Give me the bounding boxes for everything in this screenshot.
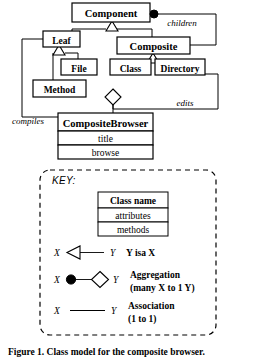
- class-box-directory[interactable]: Directory: [155, 59, 205, 75]
- class-box-class[interactable]: Class: [110, 59, 151, 75]
- class-box-method[interactable]: Method: [33, 80, 86, 97]
- key-aggregation-ball-icon: [66, 275, 75, 284]
- class-box-composite-browser-label: CompositeBrowser: [63, 118, 149, 129]
- class-box-leaf-label: Leaf: [52, 36, 71, 46]
- class-box-component-label: Component: [85, 8, 138, 19]
- key-row-inheritance-left-label: X: [53, 248, 61, 258]
- class-box-method-label: Method: [44, 85, 76, 95]
- generalization-component-composite: [72, 21, 152, 37]
- key-legend-panel: KEY: Class name attributes methods X Y Y…: [40, 170, 216, 335]
- key-sample-class-box: Class name attributes methods: [98, 192, 168, 236]
- association-label-children: children: [167, 18, 197, 28]
- key-row-association-sub: (1 to 1): [128, 314, 157, 325]
- key-row-aggregation: X Y Aggregation (many X to 1 Y): [53, 270, 195, 294]
- class-box-class-label: Class: [120, 64, 142, 74]
- class-box-composite-label: Composite: [130, 41, 178, 52]
- key-row-association-right-label: Y: [111, 306, 118, 316]
- key-sample-class-name: Class name: [110, 196, 156, 206]
- key-row-inheritance-description: Y isa X: [126, 248, 155, 258]
- key-row-aggregation-left-label: X: [53, 275, 61, 285]
- diagram-canvas: Component Leaf Composite File Class Dire…: [0, 0, 253, 357]
- class-box-directory-label: Directory: [161, 64, 200, 74]
- class-box-component[interactable]: Component: [72, 3, 150, 22]
- key-aggregation-diamond-icon: [92, 272, 109, 288]
- aggregation-ball-children: [150, 10, 158, 18]
- key-row-association-description: Association: [128, 301, 175, 311]
- key-row-aggregation-sub: (many X to 1 Y): [130, 283, 195, 294]
- association-label-edits: edits: [177, 98, 194, 108]
- association-label-compiles: compiles: [12, 116, 44, 126]
- uml-class-diagram-figure: Component Leaf Composite File Class Dire…: [0, 0, 253, 357]
- figure-caption: Figure 1. Class model for the composite …: [8, 348, 205, 357]
- figure-caption-clip: Figure 1. Class model for the composite …: [0, 348, 253, 357]
- class-box-composite-browser[interactable]: CompositeBrowser title browse: [58, 113, 153, 159]
- key-sample-class-methods: methods: [117, 225, 149, 235]
- key-row-association-left-label: X: [53, 306, 61, 316]
- key-legend-title: KEY:: [52, 175, 76, 186]
- class-box-file[interactable]: File: [61, 59, 97, 75]
- association-edits-edge: [113, 74, 218, 109]
- key-row-inheritance: X Y Y isa X: [53, 246, 155, 259]
- key-row-association: X Y Association (1 to 1): [53, 301, 175, 325]
- class-box-leaf[interactable]: Leaf: [43, 31, 80, 47]
- key-row-aggregation-right-label: Y: [113, 275, 120, 285]
- key-row-inheritance-right-label: Y: [110, 248, 117, 258]
- class-box-composite-browser-methods: browse: [92, 148, 119, 158]
- key-row-aggregation-description: Aggregation: [130, 270, 181, 280]
- key-sample-class-attributes: attributes: [115, 211, 151, 221]
- class-box-file-label: File: [71, 64, 86, 74]
- class-box-composite[interactable]: Composite: [117, 37, 190, 54]
- class-box-composite-browser-attributes: title: [98, 134, 113, 144]
